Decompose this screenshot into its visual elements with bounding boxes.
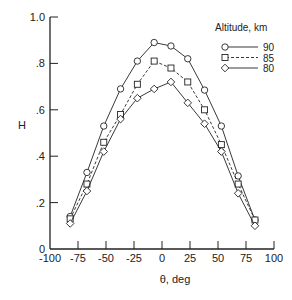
- series-line: [70, 61, 255, 220]
- diamond-marker: [150, 85, 158, 93]
- x-tick-label: -75: [70, 252, 86, 264]
- circle-marker: [185, 56, 191, 62]
- legend-entry-90: 90: [222, 42, 275, 53]
- square-marker: [222, 55, 228, 61]
- circle-marker: [201, 87, 207, 93]
- square-marker: [202, 107, 208, 113]
- y-tick-label: .2: [36, 197, 45, 209]
- circle-marker: [117, 86, 123, 92]
- legend-entry-80: 80: [221, 63, 274, 74]
- circle-marker: [134, 58, 140, 64]
- y-tick-label: .8: [36, 57, 45, 69]
- circle-marker: [151, 39, 157, 45]
- legend: Altitude, km908580: [215, 22, 275, 74]
- circle-marker: [218, 123, 224, 129]
- x-tick-label: 0: [159, 252, 165, 264]
- legend-label: 80: [263, 63, 275, 74]
- circle-marker: [84, 169, 90, 175]
- legend-label: 90: [263, 42, 275, 53]
- y-tick-label: 1.0: [30, 11, 45, 23]
- diamond-marker: [83, 187, 91, 195]
- y-tick-label: .6: [36, 104, 45, 116]
- chart: 0.2.4.6.81.0-100-75-50-250255075100 Alti…: [0, 0, 292, 300]
- legend-label: 85: [263, 53, 275, 64]
- x-axis-label: θ, deg: [160, 273, 191, 285]
- square-marker: [235, 181, 241, 187]
- square-marker: [185, 79, 191, 85]
- legend-title: Altitude, km: [215, 22, 267, 33]
- x-tick-label: -25: [126, 252, 142, 264]
- circle-marker: [168, 43, 174, 49]
- square-marker: [151, 58, 157, 64]
- square-marker: [218, 142, 224, 148]
- x-tick-label: 25: [184, 252, 196, 264]
- legend-entry-85: 85: [222, 53, 275, 64]
- square-marker: [134, 81, 140, 87]
- y-axis-label: H: [18, 119, 26, 131]
- axes: 0.2.4.6.81.0-100-75-50-250255075100: [30, 11, 283, 264]
- x-tick-label: -50: [98, 252, 114, 264]
- diamond-marker: [221, 64, 229, 72]
- square-marker: [101, 139, 107, 145]
- x-tick-label: 50: [212, 252, 224, 264]
- series-90: [67, 39, 258, 223]
- x-tick-label: 75: [240, 252, 252, 264]
- x-tick-label: 100: [265, 252, 283, 264]
- x-tick-label: -100: [39, 252, 61, 264]
- diamond-marker: [218, 148, 226, 156]
- circle-marker: [222, 44, 228, 50]
- series-80: [66, 78, 258, 229]
- square-marker: [168, 65, 174, 71]
- series-line: [70, 82, 255, 226]
- circle-marker: [101, 123, 107, 129]
- line-chart: 0.2.4.6.81.0-100-75-50-250255075100 Alti…: [0, 0, 292, 300]
- series-85: [67, 58, 258, 223]
- y-tick-label: .4: [36, 150, 45, 162]
